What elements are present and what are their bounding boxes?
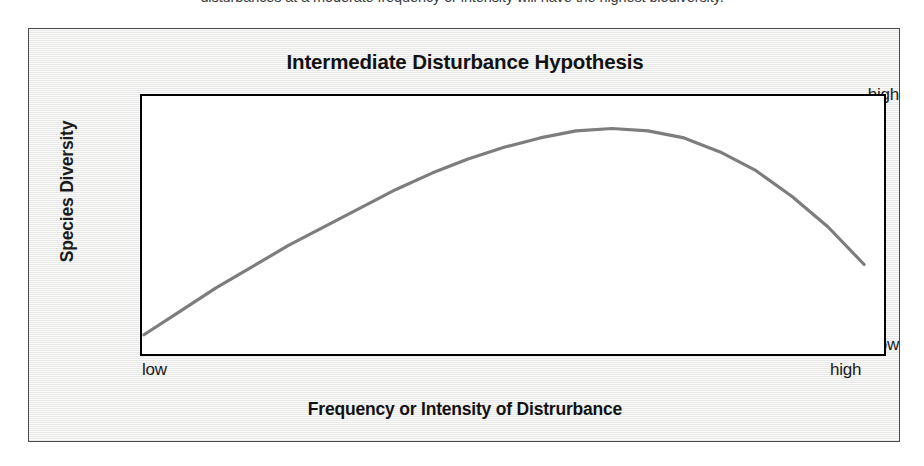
- x-axis-tick-low: low: [142, 360, 167, 380]
- page-caption-text: disturbances at a moderate frequency or …: [0, 0, 924, 9]
- chart-title: Intermediate Disturbance Hypothesis: [29, 50, 901, 74]
- figure-card: Intermediate Disturbance Hypothesis Spec…: [28, 28, 900, 442]
- x-axis-tick-high: high: [830, 360, 861, 380]
- plot-area: [140, 94, 886, 356]
- x-axis-title: Frequency or Intensity of Distrurbance: [29, 399, 901, 420]
- diversity-curve-line: [144, 129, 864, 335]
- y-axis-title: Species Diversity: [57, 92, 78, 292]
- diversity-curve-svg: [142, 96, 884, 354]
